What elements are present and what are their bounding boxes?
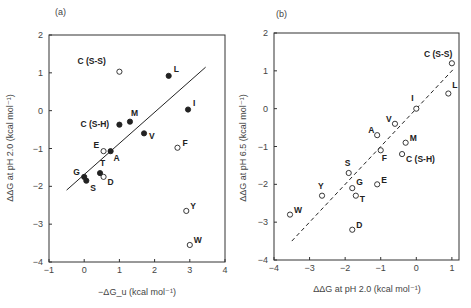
y-tick-label: −3 <box>33 219 43 229</box>
point-label: C (S-H) <box>80 119 109 129</box>
x-tick-label: −3 <box>304 263 314 273</box>
open-circle-marker <box>375 182 380 187</box>
y-axis-label-a: ΔΔG at pH 2.0 (kcal mol⁻¹) <box>5 94 15 202</box>
open-circle-marker <box>446 91 451 96</box>
filled-circle-marker <box>117 122 122 127</box>
point-label: L <box>452 80 457 90</box>
point-label: V <box>149 131 155 141</box>
x-tick-label: 3 <box>187 265 192 275</box>
x-tick-label: 0 <box>414 263 419 273</box>
open-circle-marker <box>350 227 355 232</box>
point-label: T <box>360 194 366 204</box>
point-label: Y <box>190 201 196 211</box>
open-circle-marker <box>101 174 106 179</box>
y-tick-label: −2 <box>33 181 43 191</box>
open-circle-marker <box>399 151 404 156</box>
point-label: W <box>194 235 203 245</box>
point-label: L <box>174 64 179 74</box>
x-tick-label: 1 <box>449 263 454 273</box>
point-label: V <box>386 114 392 124</box>
point-label: F <box>382 153 387 163</box>
filled-circle-marker <box>127 119 132 124</box>
y-tick-label: −1 <box>33 144 43 154</box>
open-circle-marker <box>403 140 408 145</box>
point-label: D <box>108 177 114 187</box>
point-label: G <box>73 167 80 177</box>
open-circle-marker <box>101 149 106 154</box>
open-circle-marker <box>353 193 358 198</box>
y-tick-label: 0 <box>263 104 268 114</box>
point-label: G <box>356 177 363 187</box>
point-label: M <box>131 108 138 118</box>
point-label: A <box>368 125 374 135</box>
x-axis-label-a: −ΔG_u (kcal mol⁻¹) <box>98 287 176 297</box>
panel-label-a: (a) <box>55 7 66 17</box>
chart-panel-a: (a) −101234 210−1−2−3−4 C (S-S)LIMC (S-H… <box>5 7 228 297</box>
point-label: E <box>381 175 387 185</box>
filled-circle-marker <box>141 131 146 136</box>
open-circle-marker <box>319 193 324 198</box>
chart-panel-b: (b) −4−3−2−101 210−1−2−3−4 C (S-S)LIVAMF… <box>238 9 459 294</box>
y-tick-label: 2 <box>38 30 43 40</box>
open-circle-marker <box>117 69 122 74</box>
filled-circle-marker <box>166 73 171 78</box>
open-circle-marker <box>175 145 180 150</box>
point-label: Y <box>318 181 324 191</box>
x-tick-label: 0 <box>82 265 87 275</box>
open-circle-marker <box>392 121 397 126</box>
y-tick-label: −4 <box>33 257 43 267</box>
open-circle-marker <box>414 106 419 111</box>
filled-circle-marker <box>185 107 190 112</box>
y-tick-label: 0 <box>38 106 43 116</box>
x-tick-label: 4 <box>222 265 227 275</box>
y-tick-label: 1 <box>38 68 43 78</box>
open-circle-marker <box>346 170 351 175</box>
point-label: W <box>294 205 303 215</box>
point-label: I <box>411 93 413 103</box>
y-axis-label-b: ΔΔG at pH 6.5 (kcal mol⁻¹) <box>238 94 248 202</box>
y-tick-label: 1 <box>263 66 268 76</box>
x-tick-label: −1 <box>44 265 54 275</box>
point-label: A <box>114 153 120 163</box>
filled-circle-marker <box>108 149 113 154</box>
open-circle-marker <box>375 133 380 138</box>
x-tick-label: −1 <box>376 263 386 273</box>
point-label: C (S-S) <box>424 49 453 59</box>
figure: (a) −101234 210−1−2−3−4 C (S-S)LIMC (S-H… <box>0 0 471 308</box>
open-circle-marker <box>350 186 355 191</box>
panel-label-b: (b) <box>276 9 287 19</box>
x-axis-b: −4−3−2−101 <box>269 257 455 273</box>
data-points-a: C (S-S)LIMC (S-H)VFEATDGSYW <box>73 56 203 248</box>
data-points-b: C (S-S)LIVAMFC (S-H)SGETYWD <box>287 49 457 232</box>
y-tick-label: −2 <box>258 179 268 189</box>
open-circle-marker <box>184 208 189 213</box>
open-circle-marker <box>187 242 192 247</box>
y-tick-label: −1 <box>258 142 268 152</box>
x-tick-label: −4 <box>269 263 279 273</box>
filled-circle-marker <box>84 178 89 183</box>
point-label: C (S-H) <box>406 154 435 164</box>
point-label: C (S-S) <box>77 56 106 66</box>
x-tick-label: 1 <box>117 265 122 275</box>
y-tick-label: 2 <box>263 28 268 38</box>
y-tick-label: −4 <box>258 255 268 265</box>
y-tick-label: −3 <box>258 217 268 227</box>
open-circle-marker <box>287 212 292 217</box>
point-label: E <box>94 140 100 150</box>
point-label: M <box>410 133 417 143</box>
point-label: T <box>100 158 106 168</box>
point-label: I <box>193 98 195 108</box>
point-label: S <box>90 183 96 193</box>
x-axis-a: −101234 <box>44 259 228 275</box>
plot-frame-a <box>49 35 225 262</box>
x-axis-label-b: ΔΔG at pH 2.0 (kcal mol⁻¹) <box>313 284 421 294</box>
x-tick-label: −2 <box>340 263 350 273</box>
x-tick-label: 2 <box>152 265 157 275</box>
point-label: D <box>356 220 362 230</box>
point-label: S <box>345 158 351 168</box>
open-circle-marker <box>378 148 383 153</box>
open-circle-marker <box>449 61 454 66</box>
point-label: F <box>182 138 187 148</box>
plot-frame-b <box>274 33 459 260</box>
